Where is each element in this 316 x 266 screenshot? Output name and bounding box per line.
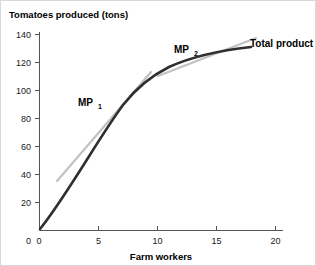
x-tick-label-5: 5 (96, 236, 101, 246)
y-axis-title: Tomatoes produced (tons) (9, 9, 128, 20)
x-tick-label-20: 20 (270, 236, 280, 246)
mp1-subscript: 1 (98, 103, 102, 110)
mp2-tangent-line (158, 38, 256, 76)
y-tick-label-80: 80 (21, 114, 31, 124)
mp1-label: MP (78, 97, 93, 108)
total-product-curve (40, 47, 251, 229)
mp2-subscript: 2 (194, 50, 198, 57)
x-tick-label-15: 15 (211, 236, 221, 246)
y-tick-label-120: 120 (16, 58, 31, 68)
tomatoes-total-product-chart: Tomatoes produced (tons) 140 120 100 80 … (1, 1, 316, 266)
chart-figure: Tomatoes produced (tons) 140 120 100 80 … (0, 0, 316, 266)
y-tick-label-20: 20 (21, 198, 31, 208)
total-product-label: Total product (250, 38, 314, 49)
y-tick-label-100: 100 (16, 86, 31, 96)
y-tick-label-0: 0 (26, 236, 31, 246)
x-tick-label-10: 10 (152, 236, 162, 246)
y-tick-label-60: 60 (21, 142, 31, 152)
mp1-annotation: MP 1 (78, 97, 102, 110)
y-tick-label-40: 40 (21, 170, 31, 180)
y-tick-label-140: 140 (16, 30, 31, 40)
mp2-label: MP (174, 44, 189, 55)
mp2-annotation: MP 2 (174, 44, 198, 57)
x-axis-title: Farm workers (130, 251, 192, 262)
x-tick-label-0: 0 (36, 236, 41, 246)
